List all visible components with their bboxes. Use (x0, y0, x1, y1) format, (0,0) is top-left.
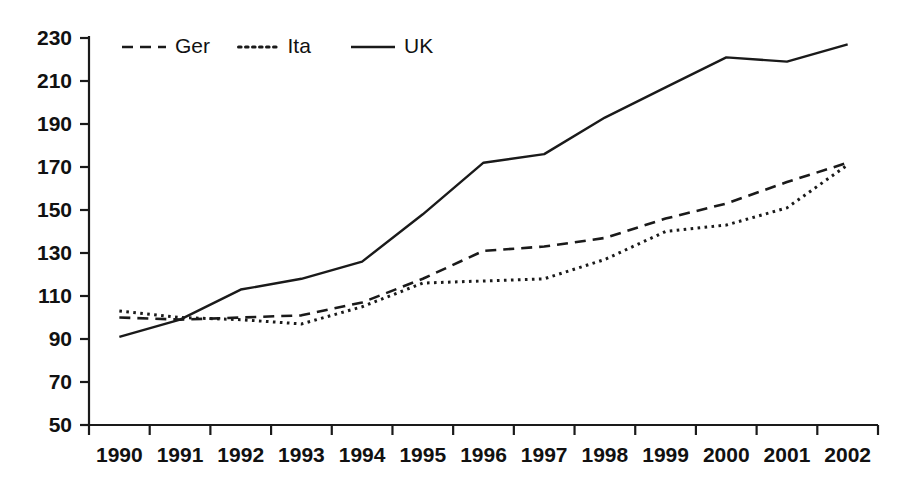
x-tick-label: 2002 (824, 443, 871, 466)
y-tick-label: 70 (49, 370, 72, 393)
y-tick-label: 210 (37, 69, 72, 92)
x-tick-label: 2000 (703, 443, 750, 466)
x-tick-label: 1997 (521, 443, 568, 466)
y-tick-label: 130 (37, 241, 72, 264)
x-tick-label: 1995 (399, 443, 446, 466)
chart-canvas: 230210190170150130110907050 199019911992… (0, 0, 914, 489)
line-chart: 230210190170150130110907050 199019911992… (0, 0, 914, 489)
legend-label-uk: UK (404, 34, 433, 57)
y-tick-label: 230 (37, 26, 72, 49)
x-tick-label: 1992 (217, 443, 264, 466)
x-tick-label: 1990 (96, 443, 143, 466)
x-tick-label: 1991 (157, 443, 204, 466)
y-tick-label: 150 (37, 198, 72, 221)
x-tick-label: 1993 (278, 443, 325, 466)
y-tick-label: 50 (49, 413, 72, 436)
x-tick-label: 1999 (642, 443, 689, 466)
legend-label-ita: Ita (288, 34, 312, 57)
y-tick-label: 90 (49, 327, 72, 350)
y-tick-label: 170 (37, 155, 72, 178)
legend-label-ger: Ger (175, 34, 210, 57)
x-tick-label: 1996 (460, 443, 507, 466)
y-tick-label: 110 (38, 284, 72, 307)
x-tick-label: 2001 (764, 443, 811, 466)
x-tick-label: 1994 (339, 443, 386, 466)
y-tick-label: 190 (37, 112, 72, 135)
chart-background (0, 0, 914, 489)
x-tick-label: 1998 (582, 443, 629, 466)
